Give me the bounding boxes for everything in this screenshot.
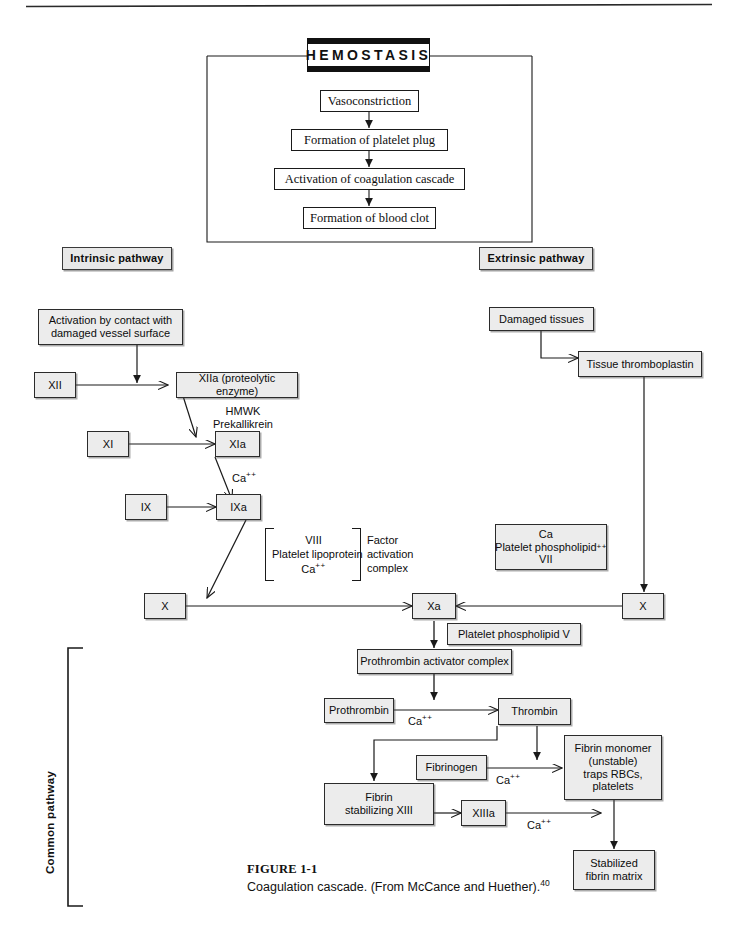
tissue-thromboplastin-box: Tissue thromboplastin xyxy=(578,351,702,377)
factor-xia-label: XIa xyxy=(229,438,246,451)
damaged-tissues-label: Damaged tissues xyxy=(499,313,584,326)
caption-reference: 40 xyxy=(540,878,549,888)
factor-ix-label: IX xyxy=(141,501,151,514)
ca-text: Ca xyxy=(496,774,510,786)
figure-caption-text: Coagulation cascade. (From McCance and H… xyxy=(247,878,667,894)
intrinsic-pathway-label: Intrinsic pathway xyxy=(70,252,163,265)
fibrin-stabilizing-xiii-box: Fibrin stabilizing XIII xyxy=(324,783,434,825)
extrinsic-cofactor-box: Ca Platelet phospholipid VII++ xyxy=(495,524,607,570)
step-coagulation-cascade: Activation of coagulation cascade xyxy=(274,168,465,190)
common-pathway-bracket xyxy=(68,648,83,906)
factor-xa-label: Xa xyxy=(427,600,440,613)
factor-xi-box: XI xyxy=(87,431,129,457)
step-label: Formation of platelet plug xyxy=(304,133,435,148)
ca-superscript: ++ xyxy=(315,561,325,570)
ca-label-xia: Ca++ xyxy=(232,470,256,485)
hmwk-prekallikrein-label: HMWK Prekallikrein xyxy=(188,405,298,431)
factor-xia-box: XIa xyxy=(215,431,260,457)
extrinsic-pathway-label: Extrinsic pathway xyxy=(488,252,585,265)
factor-x-right-box: X xyxy=(622,593,664,619)
step-label: Formation of blood clot xyxy=(310,211,429,226)
hmwk-text: HMWK Prekallikrein xyxy=(213,405,273,430)
factor-xiia-label: XIIa (proteolytic enzyme) xyxy=(177,372,297,398)
extrinsic-cofactor-label: Ca Platelet phospholipid VII xyxy=(495,528,597,566)
ca-text: Ca xyxy=(232,472,246,484)
ca-text: Ca xyxy=(527,819,541,831)
ca-label-xiiia: Ca++ xyxy=(527,817,551,832)
ca-text: Ca xyxy=(408,715,422,727)
extrinsic-pathway-label-box: Extrinsic pathway xyxy=(479,247,593,270)
caption-sentence: Coagulation cascade. (From McCance and H… xyxy=(247,880,540,894)
factor-xiiia-label: XIIIa xyxy=(472,807,495,820)
ca-label-fibrinogen: Ca++ xyxy=(496,772,520,787)
factor-xiiia-box: XIIIa xyxy=(461,800,506,826)
ca-label-prothrombin: Ca++ xyxy=(408,713,432,728)
step-vasoconstriction: Vasoconstriction xyxy=(320,90,419,112)
intrinsic-pathway-label-box: Intrinsic pathway xyxy=(62,247,172,270)
hemostasis-title-box: HEMOSTASIS xyxy=(307,38,430,72)
page-rule-top xyxy=(26,5,712,7)
factor-xiia-box: XIIa (proteolytic enzyme) xyxy=(176,372,298,398)
factor-ixa-label: IXa xyxy=(230,501,247,514)
fibrin-stabilizing-label: Fibrin stabilizing XIII xyxy=(345,791,413,817)
arrow-damaged-to-thromboplastin xyxy=(541,329,578,358)
tissue-thromboplastin-label: Tissue thromboplastin xyxy=(586,358,693,371)
damaged-tissues-box: Damaged tissues xyxy=(489,307,594,331)
ca-superscript: ++ xyxy=(246,470,256,479)
common-pathway-label: Common pathway xyxy=(44,771,56,874)
prothrombin-box: Prothrombin xyxy=(324,698,394,723)
prothrombin-activator-complex-box: Prothrombin activator complex xyxy=(357,649,512,674)
ca-superscript: ++ xyxy=(422,713,432,722)
hemostasis-title: HEMOSTASIS xyxy=(306,47,432,63)
fibrin-monomer-box: Fibrin monomer (unstable) traps RBCs, pl… xyxy=(564,735,662,800)
ca-superscript: ++ xyxy=(510,772,520,781)
prothrombin-label: Prothrombin xyxy=(329,704,389,717)
thrombin-label: Thrombin xyxy=(511,705,557,718)
figure-canvas: HEMOSTASIS Vasoconstriction Formation of… xyxy=(0,0,737,935)
factor-activation-complex-contents: VIII Platelet lipoprotein Ca++ xyxy=(272,533,355,576)
thrombin-box: Thrombin xyxy=(498,698,571,725)
factor-x-left-box: X xyxy=(144,593,186,619)
factor-ix-box: IX xyxy=(125,494,167,520)
step-label: Activation of coagulation cascade xyxy=(285,172,455,187)
ca-superscript: ++ xyxy=(597,542,607,551)
activation-label: Activation by contact with damaged vesse… xyxy=(49,314,173,340)
factor-xii-box: XII xyxy=(34,372,76,398)
factor-xa-box: Xa xyxy=(412,593,456,619)
step-blood-clot: Formation of blood clot xyxy=(303,207,436,229)
factor-xii-label: XII xyxy=(48,379,61,392)
step-label: Vasoconstriction xyxy=(328,94,411,109)
ca-superscript: ++ xyxy=(541,817,551,826)
factor-x-left-label: X xyxy=(161,600,168,613)
fibrinogen-box: Fibrinogen xyxy=(416,755,487,780)
step-platelet-plug: Formation of platelet plug xyxy=(291,129,448,151)
activation-by-contact-box: Activation by contact with damaged vesse… xyxy=(38,309,183,345)
platelet-phospholipid-v-label: Platelet phospholipid V xyxy=(458,628,570,641)
fibrinogen-label: Fibrinogen xyxy=(426,761,478,774)
figure-number: FIGURE 1-1 xyxy=(247,862,667,877)
fibrin-monomer-label: Fibrin monomer (unstable) traps RBCs, pl… xyxy=(574,742,651,793)
arrow-ixa-to-x-junction xyxy=(207,520,246,598)
prothrombin-activator-label: Prothrombin activator complex xyxy=(360,655,509,668)
complex-label-text: Factor activation complex xyxy=(367,534,413,574)
factor-ixa-box: IXa xyxy=(216,494,261,520)
figure-caption: FIGURE 1-1 Coagulation cascade. (From Mc… xyxy=(247,862,667,894)
factor-x-right-label: X xyxy=(639,600,646,613)
common-pathway-text: Common pathway xyxy=(44,771,56,874)
platelet-phospholipid-v-box: Platelet phospholipid V xyxy=(447,623,581,645)
factor-activation-complex-label: Factor activation complex xyxy=(367,533,413,575)
factor-xi-label: XI xyxy=(103,438,113,451)
